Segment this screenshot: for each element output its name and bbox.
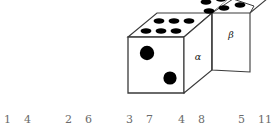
number-pair: 2 6 [65, 113, 92, 126]
pip [163, 71, 176, 84]
beta-face-label: β [227, 29, 234, 40]
number-pair-right: 8 [198, 113, 205, 126]
number-pair-right: 6 [85, 113, 92, 126]
pip [154, 18, 165, 23]
pip [140, 46, 154, 60]
number-pair: 5 11 [238, 113, 272, 126]
alpha-face-label: α [195, 51, 202, 62]
figure-root: α β 1 4 2 6 3 7 4 8 5 11 [0, 0, 279, 134]
pip [141, 28, 152, 33]
number-pair-left: 5 [238, 113, 245, 126]
pip [235, 2, 246, 7]
pip [184, 18, 195, 23]
number-pair: 1 4 [4, 113, 31, 126]
number-pair-right: 4 [24, 113, 31, 126]
number-pair-right: 11 [258, 113, 272, 126]
number-pair-left: 4 [178, 113, 185, 126]
pip [204, 8, 215, 13]
right-die-right-face-beta [212, 13, 250, 72]
number-pair-right: 7 [146, 113, 153, 126]
number-pair-left: 1 [4, 113, 11, 126]
pip [156, 28, 167, 33]
pip [169, 18, 180, 23]
number-pair-left: 3 [126, 113, 133, 126]
number-pair-left: 2 [65, 113, 72, 126]
pip [216, 0, 227, 2]
number-row: 1 4 2 6 3 7 4 8 5 11 [0, 108, 279, 130]
pip [171, 28, 182, 33]
pip [201, 0, 212, 5]
number-pair: 3 7 [126, 113, 153, 126]
left-die-front-face [128, 37, 184, 93]
number-pair: 4 8 [178, 113, 205, 126]
right-die-top-face-visible [212, 0, 255, 13]
pip [219, 5, 230, 10]
